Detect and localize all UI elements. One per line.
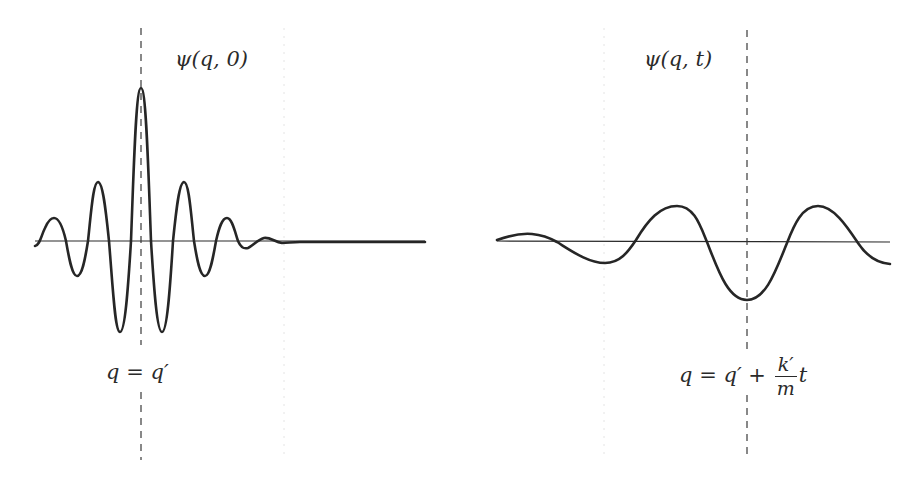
fraction-k-prime-over-m: k′ m <box>775 355 797 398</box>
label-q: q <box>106 360 119 384</box>
label-equals: = <box>126 360 144 384</box>
left-panel <box>35 28 425 460</box>
fraction-numerator: k′ <box>775 355 797 377</box>
right-center-label: q = q′ + k′ m t <box>679 355 807 398</box>
left-wave-packet-curve <box>35 88 425 332</box>
right-wave-packet-curve <box>497 206 890 300</box>
label-q-prime: q′ <box>150 360 168 384</box>
label-equals: = <box>699 363 717 387</box>
label-t: t <box>799 363 807 387</box>
psi-q-0-label: ψ(q, 0) <box>175 47 248 71</box>
label-q: q <box>679 363 692 387</box>
psi-q-t-label: ψ(q, t) <box>644 47 712 71</box>
right-panel-title: ψ(q, t) <box>644 49 712 70</box>
left-center-label: q = q′ <box>106 362 169 383</box>
label-plus: + <box>748 363 766 387</box>
fraction-denominator: m <box>775 377 797 398</box>
left-panel-title: ψ(q, 0) <box>175 49 248 70</box>
label-q-prime: q′ <box>723 363 741 387</box>
wave-packet-figure <box>0 0 918 483</box>
